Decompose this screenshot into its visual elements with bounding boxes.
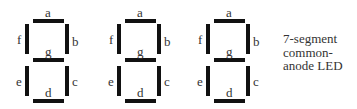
caption-line-2: common-: [283, 46, 343, 60]
segment-label-d: d: [45, 86, 52, 99]
segment-label-a: a: [45, 6, 51, 19]
segment-label-a: a: [226, 6, 232, 19]
segment-label-g: g: [226, 45, 233, 58]
segment-label-e: e: [197, 75, 203, 88]
segment-label-c: c: [72, 75, 78, 88]
seven-segment-digit-3: a f b g e c d: [181, 0, 271, 109]
segment-f: [117, 24, 121, 54]
segment-label-f: f: [198, 33, 202, 46]
segment-b: [65, 24, 69, 54]
segment-c: [65, 66, 69, 96]
segment-b: [246, 24, 250, 54]
caption-line-3: anode LED: [283, 59, 343, 73]
segment-label-c: c: [253, 75, 259, 88]
diagram-caption: 7-segment common- anode LED: [283, 32, 343, 73]
segment-e: [25, 66, 29, 96]
segment-label-e: e: [16, 75, 22, 88]
segment-label-f: f: [109, 33, 113, 46]
seven-segment-digit-2: a f b g e c d: [92, 0, 182, 109]
segment-e: [206, 66, 210, 96]
segment-c: [157, 66, 161, 96]
segment-label-b: b: [164, 35, 171, 48]
segment-label-d: d: [137, 86, 144, 99]
segment-label-e: e: [108, 75, 114, 88]
segment-label-a: a: [137, 6, 143, 19]
caption-line-1: 7-segment: [283, 32, 343, 46]
segment-label-g: g: [45, 45, 52, 58]
segment-label-f: f: [17, 33, 21, 46]
segment-e: [117, 66, 121, 96]
seven-segment-digit-1: a f b g e c d: [0, 0, 90, 109]
segment-label-g: g: [137, 45, 144, 58]
segment-label-c: c: [164, 75, 170, 88]
segment-label-b: b: [253, 35, 260, 48]
segment-f: [206, 24, 210, 54]
segment-b: [157, 24, 161, 54]
segment-label-d: d: [226, 86, 233, 99]
segment-f: [25, 24, 29, 54]
segment-label-b: b: [72, 35, 79, 48]
segment-c: [246, 66, 250, 96]
